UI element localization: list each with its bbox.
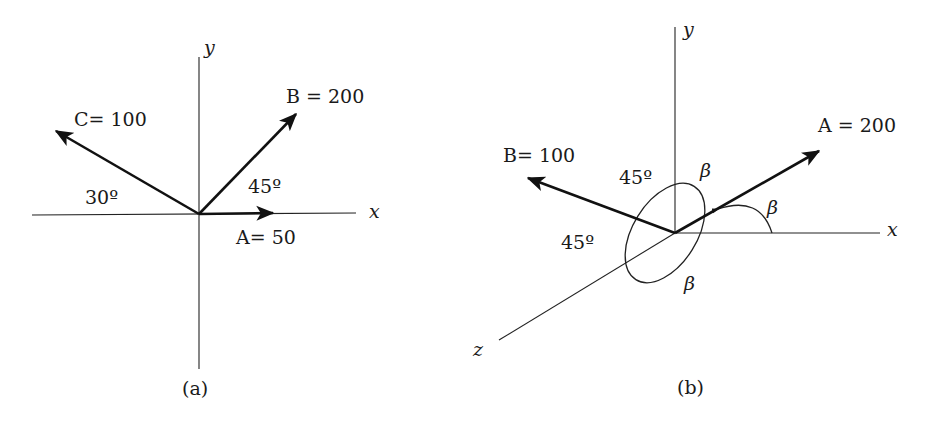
x-axis-label-b: x bbox=[887, 218, 898, 240]
angle-45-top-label: 45º bbox=[619, 166, 652, 188]
vector-a-arrow-b bbox=[675, 151, 819, 233]
caption-a: (a) bbox=[182, 377, 208, 399]
angle-beta-arc bbox=[718, 205, 772, 233]
vector-b-label: B = 200 bbox=[286, 85, 364, 107]
caption-b: (b) bbox=[677, 376, 704, 398]
angle-45-label: 45º bbox=[248, 175, 281, 197]
vector-a-label-b: A = 200 bbox=[817, 114, 896, 136]
vector-diagrams: y x B = 200 C= 100 45º 30º A= 50 (a) y x… bbox=[0, 0, 930, 434]
x-axis-a bbox=[32, 213, 356, 215]
angle-30-label: 30º bbox=[85, 186, 118, 208]
y-axis-label-a: y bbox=[203, 36, 215, 58]
vector-c-arrow bbox=[56, 131, 199, 214]
angle-beta-top-label: β bbox=[699, 159, 711, 181]
vector-a-arrow bbox=[199, 213, 273, 214]
angle-beta-right-label: β bbox=[766, 196, 778, 218]
vector-a-label: A= 50 bbox=[235, 226, 296, 248]
vector-b-arrow-b bbox=[528, 178, 675, 233]
z-axis-label-b: z bbox=[472, 338, 484, 360]
vector-b-label-b: B= 100 bbox=[503, 144, 575, 166]
panel-b: y x z A = 200 B= 100 45º 45º β β β (b) bbox=[472, 18, 898, 398]
angle-45-left-label: 45º bbox=[561, 231, 594, 253]
y-axis-label-b: y bbox=[682, 18, 694, 40]
vector-c-label: C= 100 bbox=[74, 108, 147, 130]
panel-a: y x B = 200 C= 100 45º 30º A= 50 (a) bbox=[32, 36, 380, 399]
vector-b-arrow bbox=[199, 114, 296, 214]
angle-beta-bottom-label: β bbox=[683, 272, 695, 294]
x-axis-label-a: x bbox=[369, 200, 380, 222]
